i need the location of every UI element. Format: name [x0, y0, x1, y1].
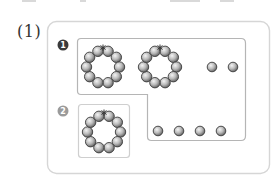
bead	[84, 71, 94, 81]
bead-counting-figure: 1 2	[0, 0, 274, 177]
bead	[207, 62, 217, 72]
group-2-ring-1	[82, 110, 125, 153]
outer-frame	[48, 22, 270, 174]
bead	[82, 127, 92, 137]
bead	[138, 62, 148, 72]
bead	[141, 71, 151, 81]
bead	[168, 52, 178, 62]
bead	[153, 126, 163, 136]
bead	[174, 126, 184, 136]
bead	[171, 62, 181, 72]
bead	[81, 62, 91, 72]
svg-text:1: 1	[60, 41, 66, 50]
bead	[160, 77, 170, 87]
group-2-marker: 2	[58, 106, 69, 117]
bead	[94, 111, 104, 121]
bead	[103, 77, 113, 87]
bead	[150, 46, 160, 56]
bead	[112, 117, 122, 127]
bead	[216, 126, 226, 136]
bead	[93, 46, 103, 56]
group-1-marker: 1	[58, 40, 69, 51]
bead	[114, 62, 124, 72]
bead	[195, 126, 205, 136]
group-1-ring-2	[138, 45, 181, 88]
svg-text:2: 2	[60, 107, 66, 116]
bead	[111, 52, 121, 62]
bead	[104, 142, 114, 152]
bead	[115, 127, 125, 137]
group-1-ring-1	[81, 45, 124, 88]
bead	[228, 62, 238, 72]
bead	[85, 136, 95, 146]
